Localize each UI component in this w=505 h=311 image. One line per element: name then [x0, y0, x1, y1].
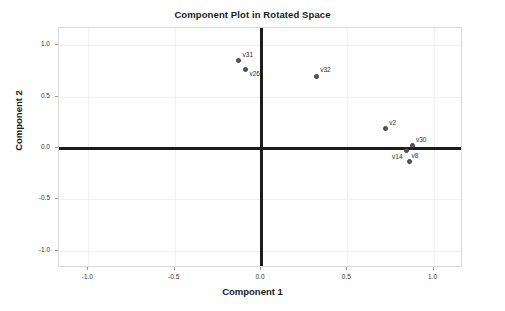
x-axis-title: Component 1 — [0, 286, 505, 297]
data-point — [383, 126, 388, 131]
data-point-label: v32 — [320, 66, 330, 73]
y-axis-title: Component 2 — [13, 61, 24, 181]
data-point-label: v14 — [392, 153, 402, 160]
y-tick-mark — [55, 96, 58, 97]
plot-area: v31v26v32v2v30v14v8 — [58, 27, 462, 267]
y-origin-axis — [260, 28, 263, 266]
x-tick-mark — [87, 267, 88, 270]
x-tick-label: 0.5 — [326, 273, 366, 280]
y-tick-mark — [55, 44, 58, 45]
data-point-label: v26 — [249, 70, 259, 77]
data-point — [243, 67, 248, 72]
x-tick-label: -0.5 — [154, 273, 194, 280]
y-tick-label: -0.5 — [10, 194, 50, 201]
data-point-label: v2 — [389, 119, 396, 126]
data-point — [407, 159, 412, 164]
data-point-label: v8 — [411, 152, 418, 159]
chart-title: Component Plot in Rotated Space — [0, 9, 505, 20]
data-point — [314, 74, 319, 79]
data-point — [404, 148, 409, 153]
x-tick-mark — [174, 267, 175, 270]
y-tick-label: -1.0 — [10, 246, 50, 253]
data-point — [236, 58, 241, 63]
x-tick-mark — [433, 267, 434, 270]
y-tick-label: 1.0 — [10, 40, 50, 47]
data-point-label: v31 — [243, 51, 253, 58]
y-tick-mark — [55, 198, 58, 199]
y-tick-mark — [55, 250, 58, 251]
component-plot-chart: Component Plot in Rotated Space v31v26v3… — [0, 0, 505, 311]
x-tick-label: 0.0 — [240, 273, 280, 280]
data-point-label: v30 — [416, 136, 426, 143]
x-tick-label: 1.0 — [413, 273, 453, 280]
x-tick-label: -1.0 — [67, 273, 107, 280]
x-tick-mark — [346, 267, 347, 270]
x-tick-mark — [260, 267, 261, 270]
y-tick-mark — [55, 147, 58, 148]
